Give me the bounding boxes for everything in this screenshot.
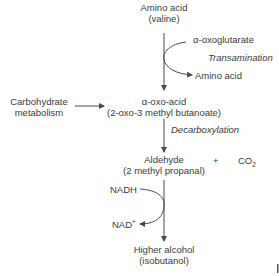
nadh-curve [140,189,164,224]
carbohydrate-metabolism-label: Carbohydrate metabolism [5,96,73,118]
nadh-label: NADH [110,184,137,195]
decarboxylation-label: Decarboxylation [171,124,239,135]
co2-label: CO2 [238,155,256,166]
amino-acid-product-label: Amino acid [195,70,242,81]
oxoglutarate-label: α-oxoglutarate [193,34,254,45]
transamination-label: Transamination [208,52,273,63]
nad-label: NAD+ [112,219,136,230]
plus-sign: + [213,155,219,166]
corner-mark [277,264,279,273]
aldehyde-label: Aldehyde (2 methyl propanal) [122,154,206,176]
amino-acid-valine-label: Amino acid (valine) [134,2,194,24]
oxo-acid-label: α-oxo-acid (2-oxo-3 methyl butanoate) [104,96,224,118]
higher-alcohol-label: Higher alcohol (isobutanol) [124,244,204,266]
transamination-curve [164,42,192,75]
